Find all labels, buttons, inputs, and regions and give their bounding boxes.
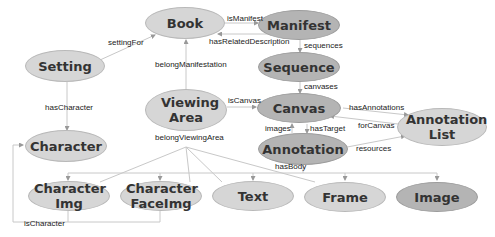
edge-label-belongviewingarea: belongViewingArea: [155, 133, 224, 142]
node-text: Text: [212, 181, 294, 211]
node-label: Manifest: [267, 18, 331, 33]
edge-label-hasannotations: hasAnnotations: [349, 103, 404, 112]
node-frame: Frame: [304, 182, 386, 212]
node-label: Viewing Area: [161, 95, 211, 125]
edge-label-sequences: sequences: [304, 41, 343, 50]
node-label: Book: [167, 16, 203, 31]
node-character-faceimg: Character FaceImg: [120, 181, 202, 211]
node-label: Character: [30, 139, 102, 154]
node-manifest: Manifest: [258, 10, 340, 40]
node-label: Annotation: [262, 142, 343, 157]
edge-label-resources: resources: [356, 144, 391, 153]
node-annotation: Annotation: [258, 133, 348, 165]
edge-label-hascharacter: hasCharacter: [45, 103, 93, 112]
node-label: Character FaceImg: [126, 181, 196, 211]
node-image: Image: [396, 182, 478, 212]
node-canvas: Canvas: [257, 93, 341, 123]
node-label: Frame: [322, 190, 368, 205]
node-label: Sequence: [263, 60, 334, 75]
node-label: Setting: [38, 59, 92, 74]
node-book: Book: [145, 7, 225, 39]
node-label: Image: [414, 190, 459, 205]
edge-label-settingfor: settingFor: [108, 38, 144, 47]
edge-label-hastarget: hasTarget: [310, 124, 345, 133]
node-annotation-list: Annotation List: [397, 108, 487, 146]
edge-label-canvases: canvases: [304, 82, 338, 91]
edge-label-hasbody: hasBody: [275, 162, 306, 171]
node-viewing-area: Viewing Area: [145, 89, 227, 131]
ontology-diagram: Book Manifest Setting Sequence Viewing A…: [0, 0, 495, 237]
edge-label-ismanifest: isManifest: [227, 14, 263, 23]
node-label: Character Img: [34, 181, 104, 211]
node-character: Character: [25, 130, 107, 162]
edge-label-iscanvas: isCanvas: [228, 96, 261, 105]
edge-label-forcanvas: forCanvas: [358, 121, 394, 130]
edge-label-ischaracter: isCharacter: [24, 219, 65, 228]
edge-label-images: images: [265, 124, 291, 133]
node-character-img: Character Img: [28, 181, 110, 211]
node-sequence: Sequence: [258, 52, 340, 82]
edge-label-belongmanifestation: belongManifestation: [155, 60, 227, 69]
node-label: Text: [238, 189, 269, 204]
edge-label-hasrelateddescription: hasRelatedDescription: [209, 37, 290, 46]
node-label: Annotation List: [406, 112, 478, 142]
node-setting: Setting: [25, 50, 105, 82]
node-label: Canvas: [273, 101, 326, 116]
